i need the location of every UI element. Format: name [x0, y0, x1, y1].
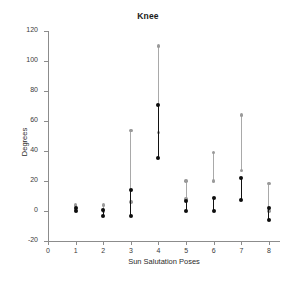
knee-range-of-motion-chart: Knee Degrees -20020406080100120 01234567… — [0, 0, 296, 283]
black-range-marker-high — [239, 176, 243, 180]
x-tick — [158, 241, 159, 245]
plot-area: -20020406080100120 012345678 — [48, 31, 280, 241]
y-axis-line — [48, 31, 49, 242]
y-tick: 60 — [44, 121, 48, 122]
x-tick-label: 1 — [74, 247, 78, 254]
y-tick: 80 — [44, 91, 48, 92]
black-range-marker-low — [239, 198, 243, 202]
x-axis-line — [48, 241, 280, 242]
black-range-bar — [241, 178, 242, 200]
gray-range-marker-high — [157, 44, 160, 47]
x-tick-label: 8 — [267, 247, 271, 254]
black-range-marker-low — [156, 156, 160, 160]
y-tick-label: 60 — [30, 116, 38, 123]
x-tick — [269, 241, 270, 245]
y-tick: 100 — [44, 61, 48, 62]
x-tick — [241, 241, 242, 245]
gray-range-bar — [186, 181, 187, 199]
gray-range-bar — [241, 115, 242, 171]
y-tick-label: 80 — [30, 86, 38, 93]
y-tick-label: 100 — [26, 56, 38, 63]
x-axis-label: Sun Salutation Poses — [48, 257, 280, 266]
x-tick-label: 0 — [46, 247, 50, 254]
black-range-marker-low — [267, 218, 271, 222]
x-tick — [103, 241, 104, 245]
y-tick-label: 120 — [26, 26, 38, 33]
x-tick — [214, 241, 215, 245]
gray-range-marker-high — [184, 179, 187, 182]
gray-range-marker-high — [102, 203, 105, 206]
black-range-marker-high — [212, 196, 216, 200]
y-tick-label: 20 — [30, 176, 38, 183]
black-range-marker-low — [212, 209, 216, 213]
y-tick: 120 — [44, 31, 48, 32]
x-tick-label: 5 — [184, 247, 188, 254]
x-tick-label: 3 — [129, 247, 133, 254]
black-range-marker-low — [101, 214, 105, 218]
black-range-bar — [158, 105, 159, 158]
gray-range-marker-low — [212, 179, 215, 182]
x-tick-label: 6 — [212, 247, 216, 254]
black-range-marker-high — [101, 208, 105, 212]
y-tick-label: -20 — [28, 236, 38, 243]
black-range-marker-high — [267, 206, 271, 210]
x-tick-label: 2 — [101, 247, 105, 254]
y-tick-label: 40 — [30, 146, 38, 153]
gray-range-marker-low — [240, 169, 243, 172]
x-tick-label: 4 — [157, 247, 161, 254]
chart-title: Knee — [0, 11, 296, 21]
y-tick: 20 — [44, 181, 48, 182]
black-range-marker-low — [129, 214, 133, 218]
black-range-marker-high — [184, 199, 188, 203]
black-range-marker-high — [156, 103, 160, 107]
gray-range-marker-high — [267, 182, 270, 185]
gray-range-marker-high — [129, 129, 132, 132]
y-tick: 0 — [44, 211, 48, 212]
x-tick-label: 7 — [239, 247, 243, 254]
x-tick — [76, 241, 77, 245]
black-range-bar — [130, 190, 131, 216]
x-tick — [186, 241, 187, 245]
y-tick: 40 — [44, 151, 48, 152]
y-tick-label: 0 — [34, 206, 38, 213]
black-range-marker-high — [129, 188, 133, 192]
gray-range-marker-high — [212, 151, 215, 154]
black-range-marker-low — [74, 209, 78, 213]
x-tick — [48, 241, 49, 245]
x-tick — [131, 241, 132, 245]
black-range-marker-low — [184, 209, 188, 213]
gray-range-bar — [213, 153, 214, 182]
y-axis-label: Degrees — [20, 127, 29, 155]
gray-range-marker-high — [240, 113, 243, 116]
